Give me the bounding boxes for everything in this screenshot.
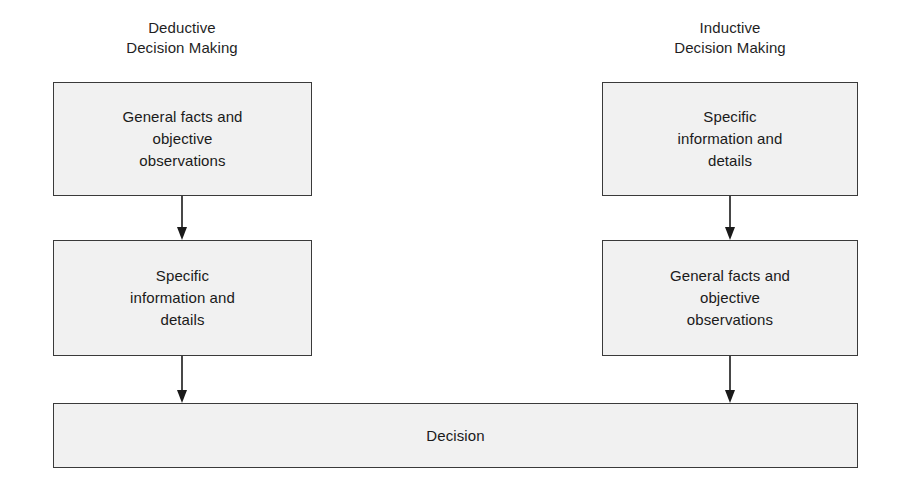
deductive-step-2-box: Specific information and details [53,240,312,356]
inductive-step-2-box: General facts and objective observations [602,240,858,356]
inductive-step-1-box: Specific information and details [602,82,858,196]
arrow-deductive-step2-to-decision [175,356,189,403]
arrow-inductive-step2-to-decision [723,356,737,403]
arrow-inductive-step1-to-step2 [723,196,737,240]
column-heading-deductive: Deductive Decision Making [62,18,302,58]
decision-making-flowchart: Deductive Decision Making Inductive Deci… [0,0,904,491]
decision-outcome-box: Decision [53,403,858,468]
arrow-deductive-step1-to-step2 [175,196,189,240]
deductive-step-1-box: General facts and objective observations [53,82,312,196]
column-heading-inductive: Inductive Decision Making [610,18,850,58]
